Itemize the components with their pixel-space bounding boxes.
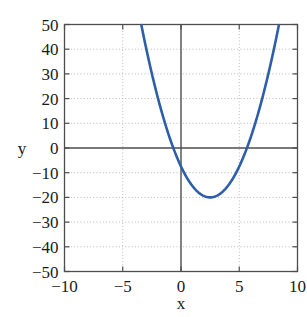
y-axis-label: y — [18, 139, 27, 158]
y-tick-label: −20 — [32, 188, 59, 207]
y-tick-label: 40 — [42, 40, 59, 59]
x-tick-label: −5 — [114, 277, 132, 296]
y-tick-label: 20 — [42, 90, 59, 109]
y-tick-label: 30 — [42, 65, 59, 84]
y-tick-label: 50 — [42, 16, 59, 35]
x-tick-label: 0 — [177, 277, 186, 296]
y-tick-label: −40 — [32, 238, 59, 257]
y-tick-label: 10 — [42, 114, 59, 133]
y-tick-label: −30 — [32, 213, 59, 232]
y-tick-label: 0 — [50, 139, 59, 158]
x-tick-label: 5 — [235, 277, 244, 296]
x-tick-label: 10 — [289, 277, 306, 296]
parabola-plot: −50−40−30−20−1001020304050 −10−50510 y x — [0, 0, 307, 317]
x-tick-label: −10 — [51, 277, 78, 296]
y-tick-label: −10 — [32, 164, 59, 183]
chart-figure: −50−40−30−20−1001020304050 −10−50510 y x — [0, 0, 307, 317]
x-axis-label: x — [177, 294, 186, 313]
